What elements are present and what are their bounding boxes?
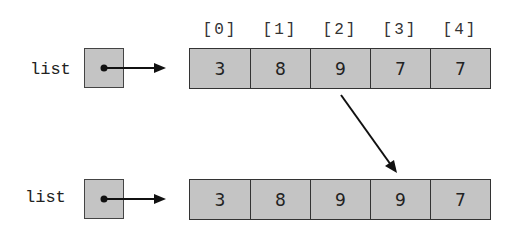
copy-element-arrow xyxy=(341,95,397,173)
arrows-layer xyxy=(0,0,516,232)
top-pointer-arrow xyxy=(101,63,167,73)
bottom-pointer-arrow xyxy=(101,194,167,204)
